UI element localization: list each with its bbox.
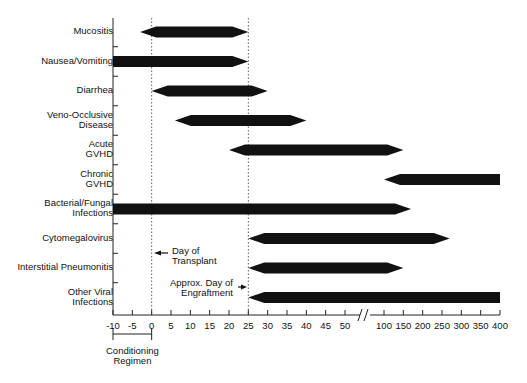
timeline-bar [113, 204, 411, 215]
row-label: Nausea/Vomiting [41, 56, 113, 66]
x-tick-label: 40 [301, 320, 312, 331]
x-tick-label: 100 [376, 320, 392, 331]
x-tick-label: 350 [473, 320, 489, 331]
timeline-bar [229, 145, 403, 156]
timeline-bar [384, 174, 500, 185]
timeline-bar [175, 115, 306, 126]
row-label: Cytomegalovirus [42, 233, 113, 243]
row-label: Other Viral Infections [68, 287, 113, 307]
timeline-bar [248, 233, 449, 244]
x-tick-label: -10 [106, 320, 120, 331]
day-of-transplant-label: Day of Transplant [172, 246, 217, 266]
x-tick-label: 25 [243, 320, 254, 331]
row-label: Veno-Occlusive Disease [47, 110, 113, 130]
conditioning-regimen-label: Conditioning Regimen [106, 346, 159, 366]
row-label: Mucositis [73, 26, 113, 36]
x-tick-label: 30 [262, 320, 273, 331]
timeline-bar [248, 292, 500, 303]
x-tick-label: 150 [395, 320, 411, 331]
x-tick-label: 15 [204, 320, 215, 331]
timeline-bar [248, 263, 403, 274]
row-label: Interstitial Pneumonitis [17, 262, 113, 272]
x-tick-label: 45 [320, 320, 331, 331]
row-label: Chronic GVHD [80, 169, 113, 189]
x-tick-label: 0 [149, 320, 154, 331]
row-label: Diarrhea [77, 85, 113, 95]
x-tick-label: 400 [492, 320, 508, 331]
timeline-bar [140, 27, 248, 38]
x-tick-label: 5 [168, 320, 173, 331]
x-tick-label: 300 [453, 320, 469, 331]
engraftment-label: Approx. Day of Engraftment [170, 278, 233, 298]
timeline-bar [113, 56, 248, 67]
x-tick-label: -5 [128, 320, 136, 331]
x-tick-label: 35 [282, 320, 293, 331]
timeline-bar [152, 86, 268, 97]
x-tick-label: 50 [340, 320, 351, 331]
row-label: Acute GVHD [86, 139, 113, 159]
x-tick-label: 10 [185, 320, 196, 331]
x-tick-label: 200 [415, 320, 431, 331]
x-tick-label: 20 [224, 320, 235, 331]
x-tick-label: 250 [434, 320, 450, 331]
row-label: Bacterial/Fungal Infections [44, 198, 113, 218]
